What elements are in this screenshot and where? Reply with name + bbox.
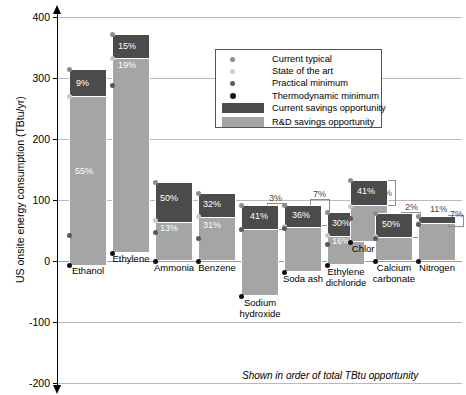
gridline-400: [57, 17, 462, 18]
y-axis-arrow-up: [53, 5, 61, 14]
bar-label-extra: 7%: [379, 188, 392, 198]
dot-current-typical: [196, 191, 201, 196]
bar-segment-current[interactable]: 50%: [155, 182, 193, 223]
tick-mark-0: [53, 261, 57, 262]
bar-segment-current[interactable]: 41%: [241, 205, 279, 230]
gridline-minus100: [57, 322, 462, 323]
bar-label-rnd: 31%: [203, 220, 221, 231]
legend-row-current-savings: Current savings opportunity: [216, 102, 381, 116]
current-savings-swatch-icon: [222, 103, 264, 113]
legend-row-practical-minimum: Practical minimum: [216, 77, 381, 89]
dot-current-typical: [373, 211, 378, 216]
bar-segment-current[interactable]: 15%: [112, 34, 150, 59]
dot-practical-minimum: [153, 230, 158, 235]
dot-current-typical: [325, 210, 330, 215]
gridline-minus200: [57, 383, 462, 384]
bar-label-extra: 2%: [405, 202, 418, 212]
bar-label-current: 9%: [76, 78, 89, 89]
bar-segment-rnd[interactable]: [284, 225, 322, 272]
bar-label-current: 50%: [382, 219, 400, 230]
thermodynamic-minimum-dot-icon: [230, 93, 236, 99]
dot-practical-minimum: [110, 83, 115, 88]
bar-label-current-pct: 11%: [430, 204, 447, 214]
bar-segment-rnd[interactable]: 19%: [112, 51, 150, 253]
dot-practical-minimum: [416, 222, 421, 227]
dot-practical-minimum: [348, 216, 353, 221]
current-typical-dot-icon: [230, 57, 235, 62]
bar-label-current: 50%: [160, 193, 178, 204]
ytick-400: 400: [8, 11, 50, 23]
ytick-200: 200: [8, 133, 50, 145]
bar-label-rnd: 55%: [75, 166, 93, 177]
bar-label-current: 15%: [118, 41, 136, 52]
y-axis-arrow-down: [53, 385, 61, 394]
dot-state-of-the-art: [110, 56, 115, 61]
dot-current-typical: [67, 67, 72, 72]
bar-label-extra: 7%: [313, 189, 326, 199]
bar-segment-rnd[interactable]: 31%: [198, 216, 236, 261]
category-label-ethanol: Ethanol: [53, 266, 123, 277]
chart-canvas: US onsite energy consumption (TBtu/yr) 4…: [0, 0, 466, 395]
dot-current-typical: [348, 178, 353, 183]
bar-segment-current[interactable]: 50%: [375, 213, 413, 238]
bar-segment-rnd[interactable]: 13%: [155, 220, 193, 261]
ytick-minus200: -200: [2, 377, 50, 389]
dot-current-typical: [282, 203, 287, 208]
legend-label: Practical minimum: [272, 77, 348, 89]
legend-label: State of the art: [272, 65, 333, 77]
tick-mark-300: [53, 78, 57, 79]
legend-label: Current savings opportunity: [272, 102, 386, 115]
y-axis-line: [57, 12, 58, 391]
legend-row-thermodynamic-minimum: Thermodynamic minimum: [216, 90, 381, 102]
legend-label: R&D savings opportunity: [272, 116, 374, 129]
legend-label: Current typical: [272, 53, 332, 65]
dot-current-typical: [110, 32, 115, 37]
dot-current-typical: [239, 203, 244, 208]
legend-label: Thermodynamic minimum: [272, 90, 379, 102]
legend-row-state-of-the-art: State of the art: [216, 65, 381, 77]
dot-state-of-the-art: [153, 218, 158, 223]
dot-current-typical: [153, 180, 158, 185]
tick-mark-minus200: [53, 383, 57, 384]
dot-state-of-the-art: [325, 233, 330, 238]
bar-segment-rnd[interactable]: [418, 222, 456, 261]
bar-label-current: 41%: [357, 186, 375, 197]
dot-practical-minimum: [196, 236, 201, 241]
bar-label-current: 32%: [203, 199, 221, 210]
dot-state-of-the-art: [348, 204, 353, 209]
tick-mark-100: [53, 200, 57, 201]
bar-segment-current[interactable]: 9%: [69, 69, 107, 97]
ytick-300: 300: [8, 72, 50, 84]
legend-row-current-typical: Current typical: [216, 53, 381, 65]
bar-segment-current[interactable]: 32%: [198, 193, 236, 218]
state-of-the-art-dot-icon: [230, 69, 235, 74]
bar-label-current: 36%: [292, 210, 310, 221]
bar-label-extra: 3%: [269, 193, 282, 203]
dot-practical-minimum: [325, 242, 330, 247]
bar-label-extra: 7%: [450, 209, 463, 219]
chart-footnote: Shown in order of total TBtu opportunity: [242, 370, 418, 381]
tick-mark-minus100: [53, 322, 57, 323]
bar-segment-rnd[interactable]: [241, 227, 279, 296]
tick-mark-200: [53, 139, 57, 140]
category-label-nitrogen: Nitrogen: [404, 263, 466, 274]
chart-legend: Current typical State of the art Practic…: [215, 49, 382, 128]
dot-practical-minimum: [373, 236, 378, 241]
bar-segment-rnd[interactable]: 55%: [69, 83, 107, 266]
dot-practical-minimum: [67, 233, 72, 238]
dot-state-of-the-art: [67, 94, 72, 99]
dot-state-of-the-art: [196, 214, 201, 219]
bar-segment-rnd[interactable]: [375, 236, 413, 261]
legend-row-rnd-savings: R&D savings opportunity: [216, 116, 381, 130]
bar-segment-current[interactable]: 36%: [284, 205, 322, 228]
bar-label-rnd: 19%: [118, 60, 136, 71]
ytick-100: 100: [8, 194, 50, 206]
ytick-minus100: -100: [2, 316, 50, 328]
bar-label-current: 41%: [250, 211, 268, 222]
dot-practical-minimum: [239, 227, 244, 232]
dot-current-typical: [416, 214, 421, 219]
category-label-sodium-hydroxide: Sodium hydroxide: [225, 298, 295, 319]
rnd-savings-swatch-icon: [222, 117, 264, 127]
bar-label-rnd: 13%: [160, 223, 178, 234]
ytick-0: 0: [8, 255, 50, 267]
